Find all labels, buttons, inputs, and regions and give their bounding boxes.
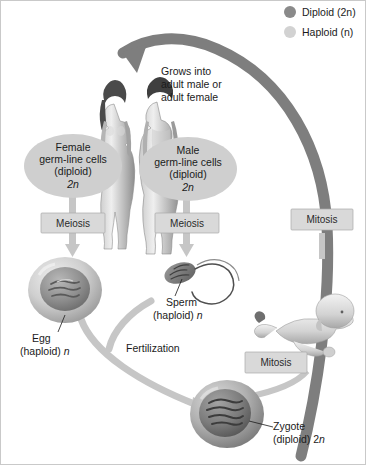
oval-male-line-1: Male <box>139 144 237 156</box>
sperm-label-line-1: Sperm <box>166 296 197 309</box>
oval-female-line-1: Female <box>24 141 122 153</box>
legend-label-haploid: Haploid (n) <box>302 26 353 38</box>
oval-female-line-3: (diploid) <box>24 165 122 177</box>
zygote-label-line-2: (diploid) 2n <box>273 433 325 446</box>
oval-male-line-2: germ-line cells <box>134 156 242 168</box>
label-mitosis-upper: Mitosis <box>291 214 353 225</box>
label-mitosis-lower: Mitosis <box>245 357 307 368</box>
sperm-label-line-2: (haploid) n <box>153 309 203 322</box>
zygote-label-line-1: Zygote <box>273 420 305 433</box>
egg-cell <box>28 257 102 323</box>
oval-female-line-2: germ-line cells <box>19 153 127 165</box>
oval-male-line-3: (diploid) <box>139 168 237 180</box>
oval-male-line-4: 2n <box>139 181 237 193</box>
legend-swatch-diploid <box>284 6 296 18</box>
grows-into-line-3: adult female <box>161 91 218 104</box>
grows-into-line-1: Grows into <box>161 65 211 78</box>
label-meiosis-female: Meiosis <box>41 218 105 229</box>
infant-figure <box>254 294 354 357</box>
legend-label-diploid: Diploid (2n) <box>302 6 356 18</box>
legend-swatch-haploid <box>284 26 296 38</box>
oval-female-line-4: 2n <box>24 178 122 190</box>
egg-label-line-1: Egg <box>32 332 51 345</box>
human-life-cycle-diagram: Diploid (2n) Haploid (n) Grows into adul… <box>0 0 366 465</box>
fertilization-label: Fertilization <box>126 342 180 355</box>
label-meiosis-male: Meiosis <box>155 218 219 229</box>
zygote-cell <box>190 380 264 448</box>
grows-into-line-2: adult male or <box>161 78 222 91</box>
egg-label-line-2: (haploid) n <box>20 345 70 358</box>
